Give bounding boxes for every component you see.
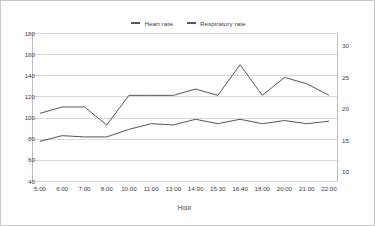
y-axis-left-tick-label: 80 bbox=[28, 135, 35, 142]
x-axis-tick-label: 6:00 bbox=[56, 185, 68, 192]
x-axis-tick-label: 22:00 bbox=[321, 185, 336, 192]
legend-item-respiratory-rate[interactable]: Respiratory rate bbox=[187, 20, 246, 27]
x-axis-tick-label: 16:40 bbox=[232, 185, 247, 192]
x-axis-tick-label: 8:00 bbox=[101, 185, 113, 192]
y-axis-left-tick-label: 100 bbox=[25, 114, 35, 121]
series-line-heart-rate bbox=[40, 65, 329, 125]
gridline bbox=[32, 181, 337, 182]
x-axis-tick-label: 18:00 bbox=[255, 185, 270, 192]
x-axis-tick-label: 21:00 bbox=[299, 185, 314, 192]
x-axis-tick-label: 10:00 bbox=[121, 185, 136, 192]
legend-line-swatch-icon bbox=[187, 22, 196, 24]
y-axis-left-tick-label: 140 bbox=[25, 72, 35, 79]
y-axis-left-tick-label: 40 bbox=[28, 178, 35, 185]
series-lines bbox=[32, 33, 337, 181]
y-axis-left-tick-label: 160 bbox=[25, 51, 35, 58]
y-axis-right-tick-label: 25 bbox=[342, 74, 349, 81]
plot-area bbox=[32, 33, 337, 181]
legend-label-heart-rate: Heart rate bbox=[144, 20, 173, 27]
legend-line-swatch-icon bbox=[131, 22, 140, 24]
y-axis-left-tick-label: 60 bbox=[28, 156, 35, 163]
x-axis-tick-label: 5:00 bbox=[34, 185, 46, 192]
y-axis-right-tick-label: 30 bbox=[342, 42, 349, 49]
legend-item-heart-rate[interactable]: Heart rate bbox=[131, 20, 173, 27]
x-axis-title: Hour bbox=[32, 204, 337, 211]
y-axis-right-line bbox=[337, 33, 338, 182]
x-axis-tick-label: 14:00 bbox=[188, 185, 203, 192]
legend-label-respiratory-rate: Respiratory rate bbox=[200, 20, 246, 27]
y-axis-left-tick-label: 120 bbox=[25, 93, 35, 100]
y-axis-right-tick-label: 10 bbox=[342, 168, 349, 175]
y-axis-right-tick-label: 15 bbox=[342, 137, 349, 144]
chart-legend: Heart rate Respiratory rate bbox=[1, 16, 375, 30]
x-axis-tick-label: 7:00 bbox=[78, 185, 90, 192]
series-line-respiratory-rate bbox=[40, 119, 329, 141]
x-axis-tick-label: 20:00 bbox=[277, 185, 292, 192]
chart-container: Heart rate Respiratory rate 180160140120… bbox=[0, 0, 375, 226]
x-axis-tick-label: 13:00 bbox=[166, 185, 181, 192]
x-axis-tick-label: 11:00 bbox=[144, 185, 159, 192]
x-axis-tick-label: 15:30 bbox=[210, 185, 225, 192]
y-axis-right-tick-label: 20 bbox=[342, 105, 349, 112]
y-axis-left-tick-label: 180 bbox=[25, 30, 35, 37]
